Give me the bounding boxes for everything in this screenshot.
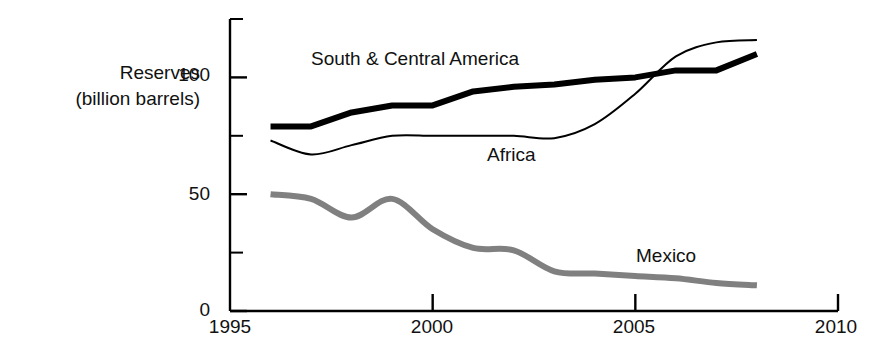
axes (230, 19, 838, 311)
data-series (271, 40, 757, 285)
reserves-line-chart: Reserves (billion barrels) 100 50 0 1995… (0, 0, 882, 357)
series-line-africa (271, 40, 757, 155)
series-line-mexico (271, 194, 757, 285)
plot-area (0, 0, 882, 357)
series-line-south-central-america (271, 54, 757, 126)
